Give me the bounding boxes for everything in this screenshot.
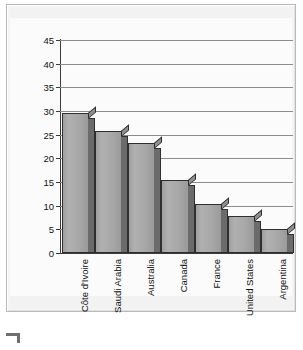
bar-side-face xyxy=(121,136,128,253)
y-axis-tick-label: 15 xyxy=(43,177,54,188)
y-axis-tick xyxy=(56,253,60,254)
y-axis-tick-label: 10 xyxy=(43,200,54,211)
scan-tint-top xyxy=(10,8,292,18)
plot-area: 051015202530354045 xyxy=(60,40,293,253)
bar xyxy=(62,113,89,253)
y-axis-tick-label: 30 xyxy=(43,106,54,117)
bar xyxy=(195,204,222,253)
y-axis-tick xyxy=(56,158,60,159)
x-axis-tick-label: France xyxy=(211,259,222,289)
bar-side-face xyxy=(287,234,294,253)
bar-front-face xyxy=(62,113,89,253)
bar-front-face xyxy=(261,229,288,253)
crop-corner-mark-icon xyxy=(6,333,20,343)
y-axis-tick xyxy=(56,87,60,88)
y-axis-tick-label: 45 xyxy=(43,35,54,46)
bar-front-face xyxy=(195,204,222,253)
y-axis-tick xyxy=(56,229,60,230)
figure-frame: Migrant population (percentage of total … xyxy=(6,4,296,312)
x-axis-tick-label: Côte d'Ivoire xyxy=(79,259,90,312)
bar-side-face xyxy=(88,118,95,253)
bar-side-face xyxy=(188,185,195,253)
bar-front-face xyxy=(128,143,155,253)
bar-side-face xyxy=(221,209,228,253)
x-axis-tick-label: Argentina xyxy=(277,259,288,300)
y-axis-tick xyxy=(56,182,60,183)
y-axis-tick-label: 25 xyxy=(43,129,54,140)
crop-corner-vertical xyxy=(17,333,20,343)
y-axis-tick xyxy=(56,135,60,136)
y-axis-tick xyxy=(56,206,60,207)
bar-front-face xyxy=(161,180,188,253)
y-axis-tick-label: 35 xyxy=(43,82,54,93)
bar xyxy=(228,216,255,253)
figure-plot-canvas: Migrant population (percentage of total … xyxy=(10,8,292,308)
bar xyxy=(261,229,288,253)
y-axis-tick-label: 0 xyxy=(49,248,54,259)
y-axis-tick-label: 5 xyxy=(49,224,54,235)
x-axis-tick-label: United States xyxy=(244,259,255,316)
bars-group xyxy=(61,40,293,253)
bar xyxy=(128,143,155,253)
x-axis-line xyxy=(60,253,293,254)
y-axis-tick xyxy=(56,40,60,41)
y-axis-tick xyxy=(56,64,60,65)
bar-side-face xyxy=(254,221,261,253)
x-axis-tick-label: Australia xyxy=(145,259,156,296)
y-axis-tick-label: 20 xyxy=(43,153,54,164)
bar-front-face xyxy=(95,131,122,253)
x-axis-tick-label: Saudi Arabia xyxy=(112,259,123,313)
y-axis-tick xyxy=(56,111,60,112)
bar-front-face xyxy=(228,216,255,253)
bar xyxy=(161,180,188,253)
y-axis-tick-label: 40 xyxy=(43,58,54,69)
x-axis-tick-label: Canada xyxy=(178,259,189,292)
bar-side-face xyxy=(154,148,161,253)
bar xyxy=(95,131,122,253)
